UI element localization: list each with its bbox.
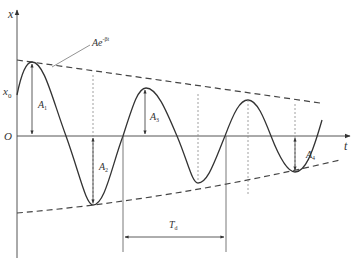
- envelope-leader: [52, 45, 90, 67]
- y-axis-label: x: [7, 7, 14, 21]
- damped-oscillation-diagram: x t O x0 Ae-βt A1 A2 A3 A4 Td: [0, 0, 357, 264]
- oscillation-curve: [17, 62, 322, 205]
- envelope-label: Ae-βt: [91, 36, 110, 48]
- amplitude-label-a1: A1: [37, 99, 47, 111]
- t-axis-label: t: [344, 139, 348, 153]
- period-label: Td: [169, 219, 178, 231]
- lower-envelope: [17, 160, 340, 213]
- amplitude-label-a2: A2: [98, 161, 108, 173]
- upper-envelope: [17, 60, 320, 103]
- origin-label: O: [4, 130, 12, 142]
- amplitude-label-a4: A4: [305, 149, 315, 161]
- x0-label: x0: [2, 85, 12, 100]
- amplitude-label-a3: A3: [149, 111, 159, 123]
